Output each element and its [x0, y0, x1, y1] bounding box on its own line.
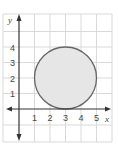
coordinate-plane: y x 1 2 3 4 5 1 2 3 4 — [0, 0, 118, 149]
shaded-circle — [35, 47, 97, 109]
x-tick-label: 1 — [32, 113, 37, 123]
y-tick-label: 3 — [10, 58, 15, 68]
x-axis-left-arrow-icon — [6, 107, 12, 112]
y-axis-label: y — [7, 15, 12, 25]
x-tick-label: 3 — [63, 113, 68, 123]
y-axis-down-arrow-icon — [17, 134, 22, 141]
y-tick-label: 4 — [10, 43, 15, 53]
x-axis-right-arrow-icon — [105, 107, 111, 112]
x-axis-label: x — [104, 114, 109, 124]
y-axis-up-arrow-icon — [17, 14, 22, 21]
y-tick-label: 2 — [10, 74, 15, 84]
x-tick-label: 2 — [48, 113, 53, 123]
y-tick-label: 1 — [10, 89, 15, 99]
x-tick-label: 4 — [79, 113, 84, 123]
x-tick-label: 5 — [94, 113, 99, 123]
